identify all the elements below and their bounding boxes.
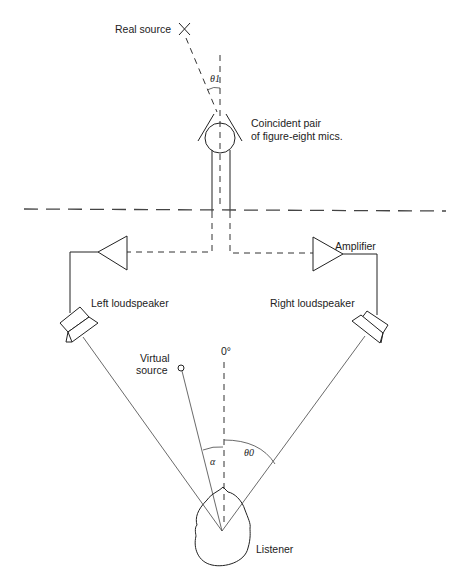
amplifier-label: Amplifier [335, 240, 376, 252]
right-speaker-ray [222, 336, 365, 531]
left-loudspeaker-icon [60, 307, 98, 342]
listener-label: Listener [256, 543, 294, 555]
virtual-source-label-line1: Virtual [140, 352, 170, 364]
right-loudspeaker-icon [352, 311, 388, 343]
stereo-diagram: Real source θ1 Coincident pair of figure… [0, 0, 456, 576]
zero-degree-label: 0° [221, 345, 231, 357]
alpha-arc [203, 447, 223, 450]
virtual-source-label-line2: source [136, 364, 168, 376]
separator-line [24, 209, 446, 211]
theta1-arc [207, 87, 220, 90]
real-source-cross-icon [179, 23, 190, 35]
mics-label-line1: Coincident pair [251, 117, 322, 129]
left-amplifier-icon [98, 236, 127, 270]
left-loudspeaker-label: Left loudspeaker [91, 297, 169, 309]
right-loudspeaker-label: Right loudspeaker [270, 297, 355, 309]
real-source-label: Real source [115, 23, 171, 35]
theta1-label: θ1 [210, 73, 220, 84]
mics-label-line2: of figure-eight mics. [251, 130, 343, 142]
left-cable-dashed [127, 212, 212, 252]
virtual-source-ray [182, 371, 222, 531]
right-cable-dashed [230, 212, 313, 253]
listener-head-icon [195, 487, 250, 566]
alpha-label: α [210, 456, 216, 467]
theta0-label: θ0 [244, 447, 254, 458]
virtual-source-icon [178, 365, 184, 371]
